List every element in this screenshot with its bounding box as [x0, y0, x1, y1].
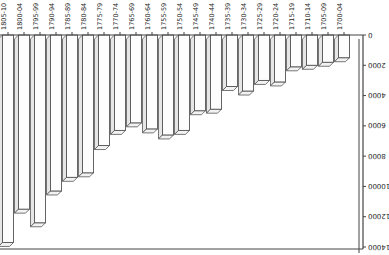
bar-chart: 020004000600080001000012000140001700-041…	[0, 0, 389, 255]
y-tick-label: 0	[368, 31, 372, 39]
bar-front-face	[83, 35, 94, 173]
x-tick-label: 1800-04	[16, 3, 24, 30]
bar	[271, 35, 286, 86]
x-tick-label: 1755-59	[160, 3, 168, 30]
bar-front-face	[99, 35, 110, 146]
bar-front-face	[147, 35, 158, 129]
y-tick-label: 10000	[368, 182, 389, 190]
bar	[223, 35, 238, 90]
bar	[79, 35, 94, 177]
bar-top-face	[0, 242, 14, 246]
bar	[319, 35, 334, 66]
bar-front-face	[339, 35, 350, 58]
x-tick-label: 1740-44	[208, 3, 216, 30]
x-tick-label: 1705-09	[320, 3, 328, 30]
bar-front-face	[195, 35, 206, 111]
bar	[47, 35, 62, 195]
bar	[287, 35, 302, 71]
x-tick-label: 1700-04	[336, 3, 344, 30]
bar	[95, 35, 110, 150]
x-tick-label: 1785-89	[64, 3, 72, 30]
bar-front-face	[323, 35, 334, 62]
bar-front-face	[259, 35, 270, 80]
bar-side-face	[319, 35, 323, 66]
x-tick-label: 1730-34	[240, 3, 248, 30]
bar	[31, 35, 46, 227]
bar	[143, 35, 158, 133]
bar-front-face	[67, 35, 78, 177]
y-tick-label: 14000	[368, 243, 389, 251]
bar-front-face	[291, 35, 302, 67]
bar	[175, 35, 190, 134]
bar-side-face	[143, 35, 147, 133]
x-tick-label: 1725-29	[256, 3, 264, 30]
bar	[191, 35, 206, 115]
bar	[303, 35, 318, 69]
bar	[0, 35, 14, 246]
x-tick-label: 1750-54	[176, 3, 184, 30]
bar-front-face	[115, 35, 126, 130]
bar-side-face	[79, 35, 83, 177]
bar-side-face	[15, 35, 19, 213]
y-tick-label: 6000	[368, 121, 386, 129]
bar-front-face	[275, 35, 286, 82]
x-tick-label: 1720-24	[272, 3, 280, 30]
x-tick-label: 1745-49	[192, 3, 200, 30]
bar	[255, 35, 270, 84]
bar-side-face	[63, 35, 67, 181]
bar-side-face	[271, 35, 275, 86]
x-tick-label: 1775-79	[96, 3, 104, 30]
bar-side-face	[191, 35, 195, 115]
y-tick-label: 8000	[368, 152, 386, 160]
x-tick-label: 1735-39	[224, 3, 232, 30]
bar-side-face	[303, 35, 307, 69]
x-tick-label: 1795-99	[32, 3, 40, 30]
x-tick-label: 1790-94	[48, 3, 56, 30]
bar	[111, 35, 126, 134]
x-tick-label: 1765-69	[128, 3, 136, 30]
y-tick-label: 2000	[368, 61, 386, 69]
chart-container: 020004000600080001000012000140001700-041…	[0, 0, 389, 255]
bar	[127, 35, 142, 127]
bar-side-face	[95, 35, 99, 150]
bars-layer	[0, 35, 350, 246]
bar-side-face	[255, 35, 259, 84]
y-tick-label: 12000	[368, 212, 389, 220]
bar-side-face	[127, 35, 131, 127]
bar-side-face	[223, 35, 227, 90]
bar-side-face	[335, 35, 339, 62]
bar-front-face	[243, 35, 254, 91]
bar-front-face	[51, 35, 62, 191]
x-tick-label: 1780-84	[80, 3, 88, 30]
bar	[207, 35, 222, 113]
bar-front-face	[179, 35, 190, 130]
bar	[159, 35, 174, 139]
x-tick-label: 1760-64	[144, 3, 152, 30]
bar-side-face	[159, 35, 163, 139]
bar-side-face	[287, 35, 291, 71]
x-tick-label: 1715-19	[288, 3, 296, 30]
bar-front-face	[35, 35, 46, 223]
bar-side-face	[207, 35, 211, 113]
bar	[15, 35, 30, 213]
bar-side-face	[111, 35, 115, 134]
bar-front-face	[3, 35, 14, 242]
bar	[335, 35, 350, 62]
x-tick-label: 1710-14	[304, 3, 312, 30]
bar-side-face	[239, 35, 243, 95]
bar-front-face	[227, 35, 238, 86]
bar-front-face	[19, 35, 30, 209]
y-tick-label: 4000	[368, 91, 386, 99]
bar	[239, 35, 254, 95]
bar-front-face	[131, 35, 142, 123]
x-tick-label: 1805-10	[0, 3, 8, 30]
bar	[63, 35, 78, 181]
x-tick-label: 1770-74	[112, 3, 120, 30]
bar-front-face	[211, 35, 222, 109]
bar-side-face	[175, 35, 179, 134]
bar-side-face	[47, 35, 51, 195]
bar-front-face	[163, 35, 174, 135]
bar-side-face	[31, 35, 35, 227]
bar-front-face	[307, 35, 318, 65]
